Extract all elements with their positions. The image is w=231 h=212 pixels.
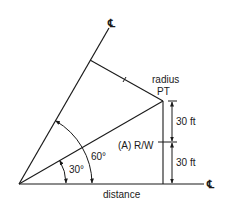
- radius-label: radius: [152, 74, 179, 85]
- thirty-degree-arc: [60, 161, 66, 184]
- distance-label: distance: [103, 189, 141, 200]
- pt-label: PT: [157, 86, 170, 97]
- centerline-top-label: ℄: [107, 17, 116, 29]
- centerline-right-label: ℄: [206, 178, 215, 190]
- sixty-degree-label: 60°: [91, 151, 106, 162]
- dim-lower-label: 30 ft: [176, 157, 196, 168]
- diagram-canvas: ℄ ℄ radius PT 30 ft 30 ft (A) R/W 60° 30…: [0, 0, 231, 212]
- row-label: (A) R/W: [118, 140, 154, 151]
- thirty-degree-label: 30°: [69, 164, 84, 175]
- geometry-diagram: ℄ ℄ radius PT 30 ft 30 ft (A) R/W 60° 30…: [0, 0, 231, 212]
- dim-upper-label: 30 ft: [176, 116, 196, 127]
